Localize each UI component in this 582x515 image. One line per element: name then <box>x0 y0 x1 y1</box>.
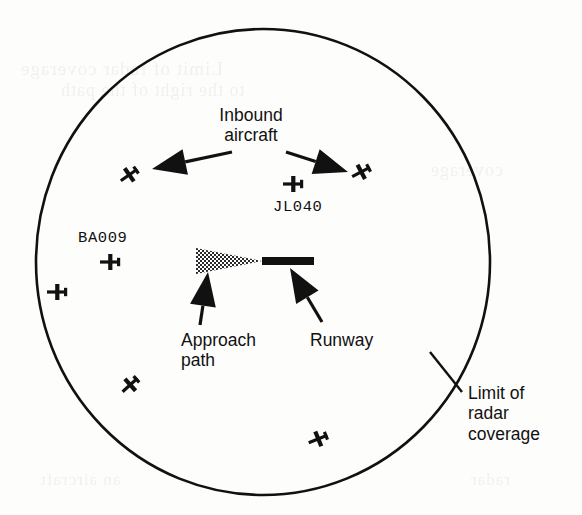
inbound-left-arrow <box>152 149 232 174</box>
arrow-shaft <box>200 306 203 325</box>
arrow-shaft <box>307 297 322 322</box>
arrow-head <box>152 149 188 174</box>
blip-bottom <box>306 428 331 450</box>
approach-path-callout: Approach path <box>181 330 281 371</box>
aircraft-callsign-ba009: BA009 <box>78 229 128 247</box>
approach-path-cone <box>196 248 262 274</box>
runway-arrow <box>290 268 322 322</box>
blip-lower-left <box>117 372 143 397</box>
arrow-head <box>190 272 216 308</box>
aircraft-callsign-jl040: JL040 <box>273 198 323 216</box>
arrow-head <box>290 268 319 304</box>
aircraft-wing <box>291 176 295 192</box>
inbound-right-arrow <box>286 149 348 174</box>
aircraft-tailplane <box>300 180 303 188</box>
aircraft-tailplane <box>117 258 120 266</box>
aircraft-wing <box>108 254 112 270</box>
radar-limit-arrow <box>430 352 462 392</box>
runway-bar <box>262 257 314 265</box>
arrow-shaft <box>185 152 232 162</box>
blip-upper-left <box>116 163 142 188</box>
arrow-head <box>312 149 348 174</box>
blip-far-left <box>47 284 67 300</box>
approach-path-arrow <box>190 272 216 325</box>
aircraft-wing <box>356 164 367 180</box>
inbound-aircraft-callout: Inbound aircraft <box>196 105 306 146</box>
radar-diagram-figure: Limit of radar coverageto the right of t… <box>0 0 582 515</box>
runway-callout: Runway <box>310 330 400 350</box>
blip-upper-right <box>348 160 373 184</box>
blip-jl040 <box>283 176 303 192</box>
aircraft-tailplane <box>64 288 67 296</box>
aircraft-wing <box>55 284 59 300</box>
arrow-shaft <box>286 152 316 162</box>
blip-ba009 <box>100 254 120 270</box>
radar-limit-callout: Limit of radar coverage <box>468 383 573 444</box>
leader-line <box>430 352 462 392</box>
